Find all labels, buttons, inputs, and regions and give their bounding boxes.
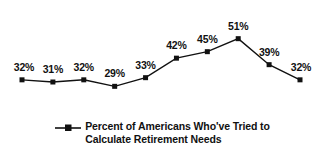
data-point-marker xyxy=(81,77,86,82)
data-point-label: 45% xyxy=(197,33,217,45)
data-point-marker xyxy=(174,56,179,61)
data-point-marker xyxy=(205,49,210,54)
data-point-label: 29% xyxy=(104,67,124,79)
data-point-label: 39% xyxy=(259,46,279,58)
series-line-percent-tried-to-calculate xyxy=(0,0,325,118)
data-point-marker xyxy=(112,84,117,89)
legend-entry: Percent of Americans Who've Tried to Cal… xyxy=(55,120,270,146)
line-chart: 32%31%32%29%33%42%45%51%39%32% Percent o… xyxy=(0,0,325,164)
data-point-marker xyxy=(236,36,241,41)
data-point-marker xyxy=(143,75,148,80)
data-point-label: 51% xyxy=(228,20,248,32)
data-point-label: 33% xyxy=(135,59,155,71)
data-point-label: 31% xyxy=(43,63,63,75)
data-point-marker xyxy=(267,62,272,67)
data-point-marker xyxy=(298,77,303,82)
data-point-marker xyxy=(20,77,25,82)
data-point-label: 32% xyxy=(14,61,34,73)
legend-label-line-2: Calculate Retirement Needs xyxy=(85,133,270,146)
legend-label-line-1: Percent of Americans Who've Tried to xyxy=(85,120,270,133)
data-point-label: 42% xyxy=(166,39,186,51)
legend-line-marker-icon xyxy=(55,122,81,134)
plot-area: 32%31%32%29%33%42%45%51%39%32% xyxy=(0,0,325,118)
data-point-label: 32% xyxy=(291,61,311,73)
data-point-marker xyxy=(50,80,55,85)
legend-label: Percent of Americans Who've Tried to Cal… xyxy=(85,120,270,146)
chart-legend: Percent of Americans Who've Tried to Cal… xyxy=(0,120,325,146)
data-point-label: 32% xyxy=(74,61,94,73)
